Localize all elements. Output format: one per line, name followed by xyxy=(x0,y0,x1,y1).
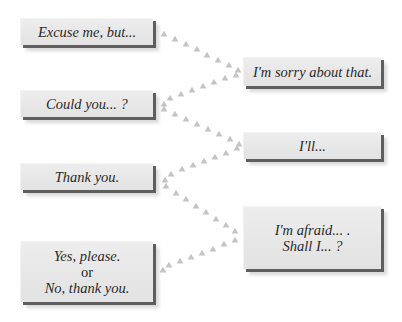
phrase-box-yes-please-or-no: Yes, please. or No, thank you. xyxy=(20,241,153,302)
phrase-label-or: or xyxy=(81,264,93,280)
phrase-box-excuse-me: Excuse me, but... xyxy=(20,18,153,45)
phrase-label: Excuse me, but... xyxy=(38,24,136,40)
phrase-label-line1: I'm afraid... . xyxy=(275,222,351,238)
phrase-box-i-will: I'll... xyxy=(243,132,381,159)
phrase-box-could-you: Could you... ? xyxy=(20,90,153,117)
phrase-label: Could you... ? xyxy=(46,96,128,112)
phrase-box-thank-you: Thank you. xyxy=(20,163,153,190)
phrase-box-sorry-about-that: I'm sorry about that. xyxy=(243,57,381,86)
phrase-label-line1: Yes, please. xyxy=(54,248,121,264)
arrow-L2-to-R2 xyxy=(161,106,243,147)
phrase-label: I'll... xyxy=(299,138,326,154)
arrow-R3-to-L4 xyxy=(160,237,239,273)
diagram-canvas: Excuse me, but... Could you... ? Thank y… xyxy=(0,0,402,322)
phrase-label: I'm sorry about that. xyxy=(253,64,372,80)
phrase-label: Thank you. xyxy=(55,169,119,185)
arrow-R2-to-L3 xyxy=(162,145,241,183)
or-connector-text: or xyxy=(81,264,93,280)
phrase-label-line3: No, thank you. xyxy=(45,280,130,296)
phrase-label-line2: Shall I... ? xyxy=(282,238,342,254)
arrow-L3-to-R3 xyxy=(163,183,239,234)
arrow-R1-to-L2 xyxy=(161,72,240,107)
arrow-L1-to-R1 xyxy=(161,31,242,73)
phrase-box-afraid-shall-i: I'm afraid... . Shall I... ? xyxy=(243,206,381,269)
